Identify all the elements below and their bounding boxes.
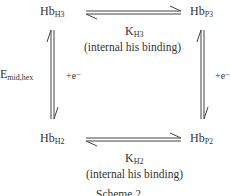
k-h2-label: KH2: [125, 151, 143, 166]
e-mid-hex-label: Emid,hex: [0, 67, 33, 82]
node-hb-h2: HbH2: [40, 131, 64, 146]
left-electron-label: +e⁻: [66, 70, 81, 81]
top-edge-note: (internal his binding): [84, 41, 181, 53]
k-h3-label: KH3: [125, 24, 143, 39]
bottom-equilibrium-arrow: [86, 133, 181, 146]
right-electron-label: +e⁻: [215, 70, 230, 81]
left-equilibrium-arrow: [47, 30, 58, 119]
right-equilibrium-arrow: [197, 30, 208, 119]
node-hb-h3: HbH3: [40, 4, 64, 19]
bottom-edge-note: (internal his binding): [86, 168, 183, 180]
scheme-caption: Scheme 2: [96, 188, 141, 196]
arrows-layer: [0, 0, 231, 196]
top-equilibrium-arrow: [86, 6, 181, 19]
node-hb-p3: HbP3: [190, 4, 213, 19]
node-hb-p2: HbP2: [190, 131, 213, 146]
